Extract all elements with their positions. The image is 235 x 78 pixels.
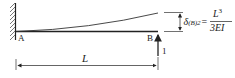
deflection-fraction: L3 3EI	[209, 7, 232, 33]
beam-diagram: δ(B)2= L3 3EI A B 1 L	[0, 0, 235, 78]
fraction-numerator: L3	[212, 7, 223, 19]
fraction-denominator: 3EI	[209, 22, 225, 33]
fixed-support	[10, 3, 16, 40]
deflection-label: δ(B)2=	[184, 16, 208, 27]
deflected-curve	[16, 13, 158, 32]
point-a-label: A	[18, 33, 25, 43]
point-b-label: B	[147, 33, 153, 43]
load-label: 1	[162, 46, 167, 56]
length-label: L	[81, 52, 88, 64]
